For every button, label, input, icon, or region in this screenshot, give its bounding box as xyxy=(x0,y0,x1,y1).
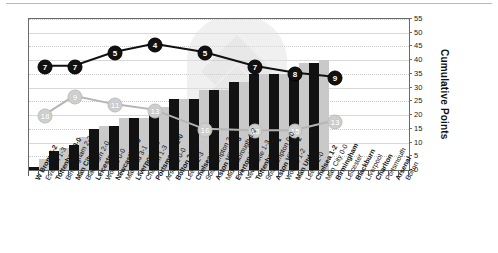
x-tick-mark xyxy=(228,171,229,176)
y-tick-label: 40 xyxy=(414,55,422,64)
y-tick-label: 55 xyxy=(414,14,422,23)
x-tick-mark xyxy=(88,171,89,176)
x-tick-mark xyxy=(268,171,269,176)
y-tick-mark xyxy=(409,142,412,143)
position-marker: 7 xyxy=(248,59,263,74)
x-tick-mark xyxy=(338,171,339,176)
position-marker: 5 xyxy=(198,45,213,60)
x-tick-mark xyxy=(148,171,149,176)
position-marker: 13 xyxy=(328,114,343,129)
x-tick-mark xyxy=(288,171,289,176)
x-axis: W Brom 3-2Everton 1-3Tottenham 3-0Birmin… xyxy=(28,171,410,253)
chart-root: 18911131615151377545789 0510152025303540… xyxy=(0,0,498,253)
x-tick-mark xyxy=(348,171,349,176)
y-tick-mark xyxy=(409,32,412,33)
position-marker: 16 xyxy=(198,122,213,137)
x-tick-mark xyxy=(168,171,169,176)
y-tick-label: 45 xyxy=(414,41,422,50)
y-tick-mark xyxy=(409,100,412,101)
x-tick-mark xyxy=(218,171,219,176)
position-marker: 9 xyxy=(328,70,343,85)
x-tick-mark xyxy=(108,171,109,176)
x-tick-mark xyxy=(68,171,69,176)
position-marker: 9 xyxy=(68,89,83,104)
x-tick-mark xyxy=(98,171,99,176)
x-tick-mark xyxy=(398,171,399,176)
x-tick-mark xyxy=(258,171,259,176)
y-tick-label: 30 xyxy=(414,83,422,92)
y-tick-label: 5 xyxy=(414,151,418,160)
y-tick-label: 15 xyxy=(414,124,422,133)
y-tick-mark xyxy=(409,128,412,129)
x-tick-mark xyxy=(38,171,39,176)
y-tick-mark xyxy=(409,18,412,19)
y-axis-title: Cumulative Points xyxy=(436,18,450,171)
y-tick-mark xyxy=(409,73,412,74)
y-axis: 0510152025303540455055 xyxy=(412,18,438,171)
x-tick-mark xyxy=(378,171,379,176)
y-tick-mark xyxy=(409,87,412,88)
x-tick-mark xyxy=(78,171,79,176)
top-divider xyxy=(6,3,492,4)
y-tick-label: 10 xyxy=(414,138,422,147)
position-marker: 8 xyxy=(288,66,303,81)
position-marker: 11 xyxy=(108,98,123,113)
y-tick-label: 25 xyxy=(414,96,422,105)
x-tick-mark xyxy=(58,171,59,176)
position-marker: 13 xyxy=(148,103,163,118)
x-tick-mark xyxy=(128,171,129,176)
x-tick-mark xyxy=(248,171,249,176)
x-tick-mark xyxy=(388,171,389,176)
y-tick-label: 50 xyxy=(414,28,422,37)
x-tick-mark xyxy=(178,171,179,176)
y-tick-mark xyxy=(409,114,412,115)
x-tick-mark xyxy=(28,171,29,176)
x-tick-mark xyxy=(138,171,139,176)
y-tick-mark xyxy=(409,59,412,60)
y-tick-mark xyxy=(409,45,412,46)
position-marker: 7 xyxy=(68,59,83,74)
y-tick-label: 35 xyxy=(414,69,422,78)
x-tick-mark xyxy=(48,171,49,176)
position-marker: 4 xyxy=(148,37,163,52)
position-marker: 7 xyxy=(38,59,53,74)
x-tick-mark xyxy=(318,171,319,176)
x-tick-mark xyxy=(198,171,199,176)
x-tick-mark xyxy=(238,171,239,176)
x-tick-mark xyxy=(358,171,359,176)
position-marker: 5 xyxy=(108,45,123,60)
x-tick-mark xyxy=(308,171,309,176)
y-tick-label: 20 xyxy=(414,110,422,119)
x-tick-mark xyxy=(298,171,299,176)
x-tick-mark xyxy=(278,171,279,176)
x-tick-mark xyxy=(368,171,369,176)
x-tick-mark xyxy=(328,171,329,176)
x-tick-mark xyxy=(158,171,159,176)
x-tick-mark xyxy=(208,171,209,176)
position-marker: 18 xyxy=(38,109,53,124)
x-tick-mark xyxy=(408,171,409,176)
x-tick-mark xyxy=(188,171,189,176)
x-tick-mark xyxy=(118,171,119,176)
